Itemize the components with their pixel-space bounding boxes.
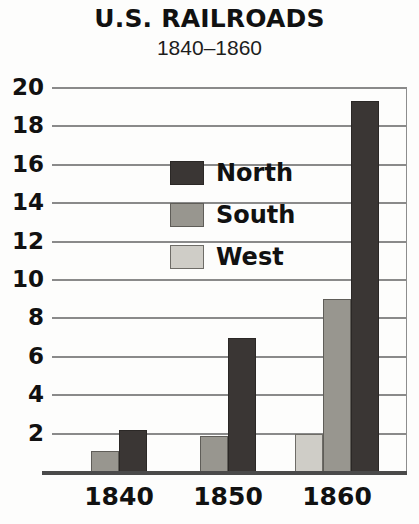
bar-1840-south [91,451,119,472]
legend-swatch-icon [170,245,204,269]
bar-1840-north [119,430,147,472]
y-axis-tick-label: 12 [0,230,44,253]
legend-item-label: West [216,245,284,269]
y-axis-tick-label: 10 [0,268,44,291]
y-axis-tick-label: 20 [0,76,44,99]
x-axis-tick-labels: 184018501860 [52,482,407,522]
y-axis-tick-label: 8 [0,306,44,329]
legend-item-south: South [170,194,295,236]
y-axis-tick-label: 18 [0,114,44,137]
bar-1860-north [351,101,379,472]
bar-1850-north [228,338,256,472]
bar-1860-west [295,434,323,472]
gridline [52,87,407,89]
legend-item-label: North [216,161,293,185]
x-axis-tick-label: 1840 [64,482,174,512]
chart-page: U.S. RAILROADS 1840–1860 246810121416182… [0,0,419,524]
legend-item-north: North [170,152,295,194]
page-title: U.S. RAILROADS [0,4,419,34]
y-axis-tick-label: 6 [0,345,44,368]
title-block: U.S. RAILROADS 1840–1860 [0,4,419,61]
y-axis-tick-label: 4 [0,383,44,406]
legend-swatch-icon [170,161,204,185]
bar-1860-south [323,299,351,472]
plot-area [52,88,407,472]
chart-subtitle: 1840–1860 [0,35,419,61]
y-axis-tick-label: 14 [0,191,44,214]
x-axis-line [42,471,407,475]
plot-right-border [406,88,407,472]
bar-1850-south [200,436,228,472]
legend-item-label: South [216,203,295,227]
x-axis-tick-label: 1850 [173,482,283,512]
legend-item-west: West [170,236,295,278]
x-axis-tick-label: 1860 [282,482,392,512]
legend-swatch-icon [170,203,204,227]
y-axis-tick-label: 2 [0,422,44,445]
legend: NorthSouthWest [170,152,295,278]
y-axis-tick-label: 16 [0,153,44,176]
